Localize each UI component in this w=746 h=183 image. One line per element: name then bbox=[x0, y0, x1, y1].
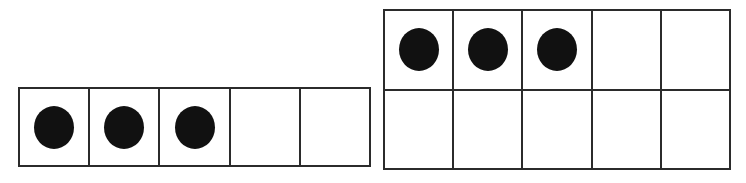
frame-cell-filled[interactable] bbox=[521, 11, 590, 89]
black-circle-counter-icon bbox=[34, 106, 74, 149]
frame-cell-filled[interactable] bbox=[385, 11, 452, 89]
frame-row bbox=[385, 11, 729, 89]
frame-cell-empty[interactable] bbox=[660, 11, 729, 89]
ten-frame-right bbox=[383, 9, 731, 170]
frame-cell-filled[interactable] bbox=[88, 89, 158, 165]
frame-cell-empty[interactable] bbox=[385, 91, 452, 169]
black-circle-counter-icon bbox=[399, 28, 439, 71]
five-frame-left bbox=[18, 87, 371, 167]
black-circle-counter-icon bbox=[175, 106, 215, 149]
black-circle-counter-icon bbox=[468, 28, 508, 71]
frame-cell-filled[interactable] bbox=[20, 89, 88, 165]
black-circle-counter-icon bbox=[537, 28, 577, 71]
frame-cell-filled[interactable] bbox=[452, 11, 521, 89]
frame-cell-empty[interactable] bbox=[299, 89, 369, 165]
frame-cell-empty[interactable] bbox=[591, 11, 660, 89]
frame-cell-filled[interactable] bbox=[158, 89, 228, 165]
black-circle-counter-icon bbox=[104, 106, 144, 149]
frame-row bbox=[20, 89, 369, 165]
frame-cell-empty[interactable] bbox=[452, 91, 521, 169]
frame-cell-empty[interactable] bbox=[591, 91, 660, 169]
ten-frame-canvas bbox=[0, 0, 746, 183]
frame-cell-empty[interactable] bbox=[521, 91, 590, 169]
frame-cell-empty[interactable] bbox=[229, 89, 299, 165]
frame-row bbox=[385, 89, 729, 169]
frame-cell-empty[interactable] bbox=[660, 91, 729, 169]
